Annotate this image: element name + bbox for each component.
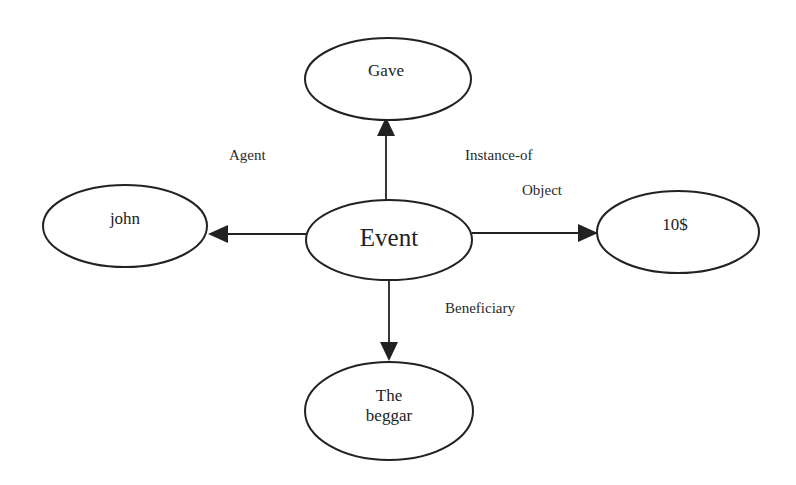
edge-agent	[208, 225, 306, 243]
edge-instance-of	[377, 117, 395, 200]
node-label-the-beggar: The beggar	[366, 386, 412, 425]
node-label-gave: Gave	[368, 61, 404, 81]
arrowhead-left-icon	[208, 225, 228, 243]
node-label-ten-dollars: 10$	[662, 215, 688, 235]
node-label-john: john	[110, 209, 140, 229]
arrowhead-down-icon	[380, 342, 398, 361]
edge-label-agent: Agent	[229, 147, 266, 164]
edge-beneficiary	[380, 280, 398, 361]
arrowhead-right-icon	[578, 224, 598, 242]
edge-object	[472, 224, 598, 242]
edge-label-instance-of: Instance-of	[465, 147, 532, 164]
edge-label-object: Object	[522, 182, 562, 199]
node-label-event: Event	[360, 224, 418, 253]
edge-label-beneficiary: Beneficiary	[445, 300, 515, 317]
